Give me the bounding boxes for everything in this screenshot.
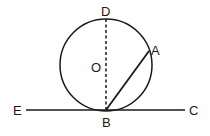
chord-ba — [106, 51, 149, 110]
label-o: O — [91, 60, 101, 75]
label-b: B — [102, 115, 111, 130]
label-c: C — [189, 103, 198, 118]
geometry-diagram: D O A B E C — [0, 0, 210, 136]
label-e: E — [13, 103, 22, 118]
label-a: A — [151, 43, 160, 58]
label-d: D — [101, 4, 110, 19]
